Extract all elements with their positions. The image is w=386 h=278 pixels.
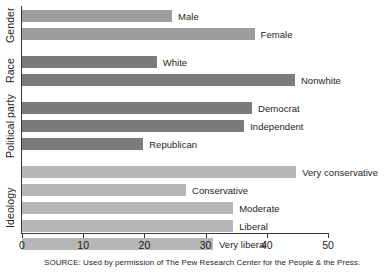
group-label-political-party: Political party <box>3 102 17 150</box>
bar[interactable] <box>22 120 244 132</box>
x-tick-label-30: 30 <box>200 239 212 251</box>
bar-label: Republican <box>149 139 197 150</box>
bar-row[interactable]: Moderate <box>22 202 328 214</box>
x-tick-40 <box>267 234 268 238</box>
x-tick-label-0: 0 <box>19 239 25 251</box>
bar-row[interactable]: Nonwhite <box>22 74 328 86</box>
group-label-ideology: Ideology <box>3 166 17 250</box>
bar[interactable] <box>22 10 172 22</box>
bar-row[interactable]: Democrat <box>22 102 328 114</box>
bar-row[interactable]: Female <box>22 28 328 40</box>
group-label-race: Race <box>3 56 17 86</box>
bar-label: Nonwhite <box>301 75 341 86</box>
bar[interactable] <box>22 220 233 232</box>
x-tick-label-50: 50 <box>322 239 334 251</box>
x-tick-30 <box>206 234 207 238</box>
bar-row[interactable]: Conservative <box>22 184 328 196</box>
group-label-gender: Gender <box>3 10 17 40</box>
bar-row[interactable]: Very conservative <box>22 166 328 178</box>
bar-row[interactable]: Very liberal <box>22 238 328 250</box>
x-tick-label-20: 20 <box>139 239 151 251</box>
bar-row[interactable]: Male <box>22 10 328 22</box>
bar-row[interactable]: Liberal <box>22 220 328 232</box>
bar[interactable] <box>22 202 233 214</box>
x-axis-line <box>21 233 329 234</box>
y-axis-line <box>21 6 22 234</box>
bar[interactable] <box>22 238 213 250</box>
x-tick-50 <box>328 234 329 238</box>
bar[interactable] <box>22 166 296 178</box>
bar-row[interactable]: White <box>22 56 328 68</box>
x-tick-label-10: 10 <box>77 239 89 251</box>
bar-label: Very conservative <box>302 167 378 178</box>
bar-label: Conservative <box>192 185 248 196</box>
bar[interactable] <box>22 138 143 150</box>
bar[interactable] <box>22 28 255 40</box>
bar-label: Independent <box>250 121 303 132</box>
x-tick-label-40: 40 <box>261 239 273 251</box>
bar-chart-figure: GenderRacePolitical partyIdeology MaleFe… <box>0 0 386 278</box>
bar-label: Moderate <box>239 203 280 214</box>
bar-label: Female <box>261 29 293 40</box>
source-note: SOURCE: Used by permission of The Pew Re… <box>44 258 360 267</box>
x-tick-10 <box>83 234 84 238</box>
bar[interactable] <box>22 56 157 68</box>
bar[interactable] <box>22 102 252 114</box>
bar-row[interactable]: Independent <box>22 120 328 132</box>
bar-label: White <box>163 57 188 68</box>
bar-row[interactable]: Republican <box>22 138 328 150</box>
bar-label: Male <box>178 11 199 22</box>
bar[interactable] <box>22 74 295 86</box>
bar[interactable] <box>22 184 186 196</box>
bar-label: Very liberal <box>219 239 267 250</box>
bar-label: Democrat <box>258 103 300 114</box>
x-tick-0 <box>22 234 23 238</box>
bar-label: Liberal <box>239 221 268 232</box>
x-tick-20 <box>144 234 145 238</box>
